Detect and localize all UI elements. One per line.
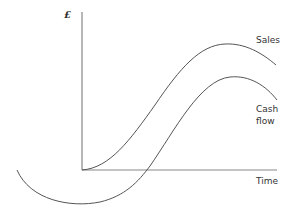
cash-flow-curve: [17, 77, 277, 204]
cash-flow-label-line1: Cash: [256, 104, 278, 115]
sales-label: Sales: [256, 35, 280, 46]
chart-canvas: [0, 0, 293, 212]
x-axis-label: Time: [256, 176, 278, 187]
cash-flow-label-line2: flow: [256, 116, 275, 127]
sales-curve: [82, 44, 276, 170]
y-axis-label: £: [64, 9, 71, 20]
